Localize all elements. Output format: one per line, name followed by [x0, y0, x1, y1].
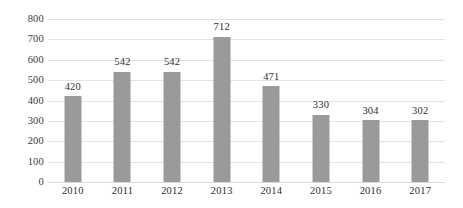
y-axis-tick-label: 300	[0, 116, 44, 127]
bar-slot: 302	[395, 19, 445, 182]
bar-chart: 0100200300400500600700800 42054254271247…	[0, 0, 463, 208]
bar-value-label: 420	[65, 82, 81, 93]
bar-series: 420542542712471330304302	[48, 19, 445, 182]
bar-slot: 471	[247, 19, 297, 182]
y-axis-tick-label: 800	[0, 14, 44, 25]
bar-slot: 712	[197, 19, 247, 182]
bar-value-label: 330	[313, 100, 329, 111]
bar[interactable]	[312, 115, 329, 182]
y-axis-tick-labels: 0100200300400500600700800	[0, 0, 44, 208]
bar[interactable]	[164, 72, 181, 182]
bar-slot: 542	[98, 19, 148, 182]
bar-value-label: 304	[362, 106, 378, 117]
bar-slot: 330	[296, 19, 346, 182]
bar[interactable]	[64, 96, 81, 182]
x-axis-tick-labels: 20102011201220132014201520162017	[48, 186, 445, 204]
x-axis-tick-label: 2014	[260, 186, 282, 197]
y-axis-tick-label: 600	[0, 55, 44, 66]
bar[interactable]	[114, 72, 131, 182]
plot-area: 420542542712471330304302	[48, 19, 445, 182]
y-axis-tick-label: 0	[0, 177, 44, 188]
bar-value-label: 542	[164, 57, 180, 68]
bar[interactable]	[412, 120, 429, 182]
x-axis-tick-label: 2012	[161, 186, 183, 197]
gridline	[48, 182, 445, 183]
x-axis-tick-label: 2010	[62, 186, 84, 197]
y-axis-tick-label: 700	[0, 34, 44, 45]
x-axis-tick-label: 2016	[360, 186, 382, 197]
x-axis-tick-label: 2015	[310, 186, 332, 197]
bar-value-label: 542	[114, 57, 130, 68]
y-axis-tick-label: 400	[0, 95, 44, 106]
y-axis-tick-label: 200	[0, 136, 44, 147]
bar-slot: 420	[48, 19, 98, 182]
x-axis-tick-label: 2013	[211, 186, 233, 197]
x-axis-tick-label: 2017	[409, 186, 431, 197]
x-axis-tick-label: 2011	[112, 186, 133, 197]
bar[interactable]	[362, 120, 379, 182]
bar-value-label: 712	[214, 22, 230, 33]
bar-slot: 304	[346, 19, 396, 182]
bar-slot: 542	[147, 19, 197, 182]
bar[interactable]	[263, 86, 280, 182]
bar-value-label: 302	[412, 106, 428, 117]
y-axis-tick-label: 100	[0, 156, 44, 167]
bar-value-label: 471	[263, 72, 279, 83]
y-axis-tick-label: 500	[0, 75, 44, 86]
bar[interactable]	[213, 37, 230, 182]
